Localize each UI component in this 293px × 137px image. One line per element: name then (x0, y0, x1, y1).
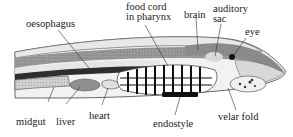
label-eye: eye (245, 27, 260, 37)
auditory-sac (205, 52, 223, 62)
oral-hood (230, 76, 266, 92)
label-velar-fold: velar fold (218, 112, 259, 122)
label-auditory-sac: auditory sac (213, 4, 248, 24)
pharynx (117, 65, 217, 95)
endostyle (162, 92, 198, 97)
label-endostyle: endostyle (153, 119, 193, 129)
label-liver: liver (56, 117, 75, 127)
liver (70, 79, 100, 91)
label-brain: brain (184, 10, 206, 20)
label-food-cord: food cord in pharynx (126, 2, 171, 22)
label-midgut: midgut (16, 117, 46, 127)
label-heart: heart (89, 111, 110, 121)
label-oesophagus: oesophagus (26, 19, 75, 29)
